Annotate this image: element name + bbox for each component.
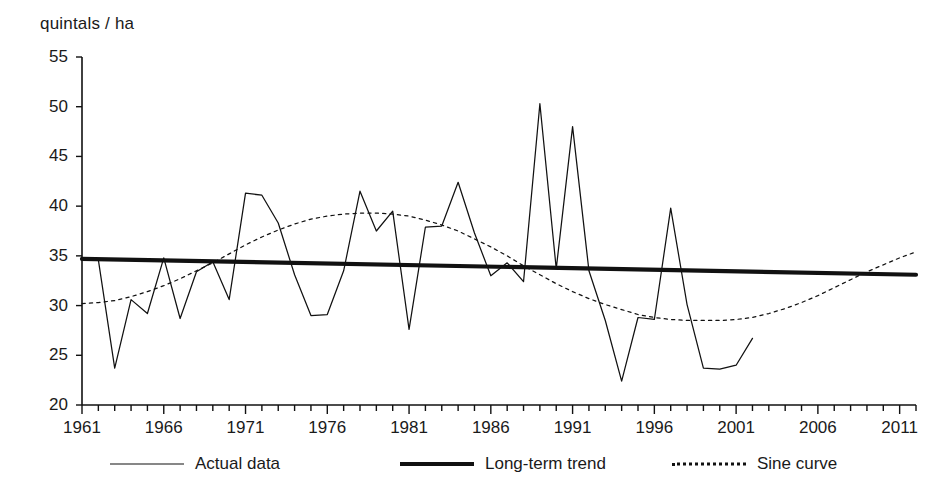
legend-item-actual-data[interactable]: Actual data <box>110 452 280 476</box>
x-tick-label: 1981 <box>381 419 437 436</box>
chart-container: quintals / ha 5550454035302520 196119661… <box>0 0 933 503</box>
y-tick-label: 50 <box>34 98 68 115</box>
legend-swatch-icon <box>110 458 184 470</box>
legend-item-long-term-trend[interactable]: Long-term trend <box>400 452 606 476</box>
legend-item-label: Long-term trend <box>485 454 606 474</box>
legend-item-sine-curve[interactable]: Sine curve <box>672 452 837 476</box>
chart-legend: Actual dataLong-term trendSine curve <box>0 452 933 486</box>
y-tick-label: 45 <box>34 147 68 164</box>
x-tick-label: 1976 <box>299 419 355 436</box>
y-tick-label: 30 <box>34 297 68 314</box>
y-tick-label: 40 <box>34 197 68 214</box>
y-tick-label: 55 <box>34 48 68 65</box>
legend-item-label: Actual data <box>195 454 280 474</box>
x-tick-label: 1991 <box>545 419 601 436</box>
legend-item-label: Sine curve <box>757 454 837 474</box>
legend-swatch-icon <box>400 458 474 470</box>
y-tick-label: 25 <box>34 346 68 363</box>
y-tick-label: 20 <box>34 396 68 413</box>
series-long-term-trend <box>82 259 916 275</box>
x-tick-label: 1996 <box>626 419 682 436</box>
legend-swatch-icon <box>672 458 746 470</box>
x-tick-label: 1986 <box>463 419 519 436</box>
x-tick-label: 1971 <box>218 419 274 436</box>
series-actual-data <box>82 104 752 381</box>
x-tick-label: 2011 <box>872 419 928 436</box>
x-tick-label: 2001 <box>708 419 764 436</box>
x-tick-label: 1961 <box>54 419 110 436</box>
x-tick-label: 1966 <box>136 419 192 436</box>
y-tick-label: 35 <box>34 247 68 264</box>
x-tick-label: 2006 <box>790 419 846 436</box>
